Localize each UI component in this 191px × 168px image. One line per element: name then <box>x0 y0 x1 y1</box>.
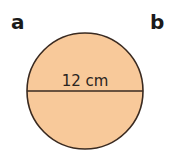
circle-diagram: 12 cm <box>0 0 191 168</box>
diameter-label: 12 cm <box>62 72 109 90</box>
